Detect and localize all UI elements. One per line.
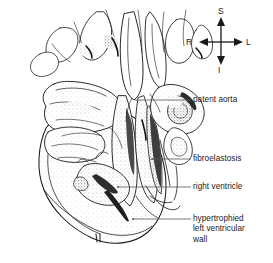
label-hypertrophied-left-ventricular-wall: hypertrophied left ventricular wall	[193, 214, 245, 245]
compass-label-inferior: I	[218, 65, 220, 75]
compass-arrowhead-inferior	[217, 56, 225, 65]
leader-dot-fibroelastosis	[151, 158, 153, 160]
leader-dot-hypertrophied-wall	[132, 218, 134, 220]
label-hypertrophied-line3: wall	[193, 235, 245, 245]
vessel-branch-left-3	[30, 52, 58, 76]
compass-label-superior: S	[218, 6, 224, 16]
compass-label-right: R	[186, 37, 192, 47]
label-patent-aorta: patent aorta	[193, 95, 237, 105]
label-hypertrophied-line2: left ventricular	[193, 224, 245, 234]
compass-label-left: L	[246, 37, 251, 47]
compass-arrowhead-superior	[217, 17, 225, 26]
label-hypertrophied-line1: hypertrophied	[193, 214, 245, 224]
anatomical-figure: S I R L patent aorta fibroelastosis righ…	[0, 0, 273, 263]
label-fibroelastosis: fibroelastosis	[193, 154, 241, 164]
aorta-trunk	[120, 12, 143, 100]
label-right-ventricle: right ventricle	[193, 182, 242, 192]
leader-dot-right-ventricle	[117, 186, 119, 188]
compass-arrowhead-left	[234, 38, 243, 46]
left-lower-lobe	[45, 127, 105, 162]
